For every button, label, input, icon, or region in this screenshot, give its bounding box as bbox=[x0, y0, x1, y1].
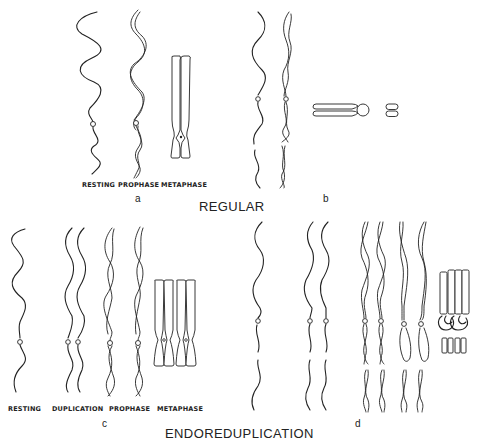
centromere-icon bbox=[363, 319, 368, 324]
panel-b bbox=[252, 12, 398, 188]
panel-label-d: d bbox=[355, 418, 361, 429]
panel-c-duplication-chromosomes bbox=[65, 228, 86, 392]
panel-a bbox=[77, 10, 191, 178]
centromere-icon bbox=[18, 340, 23, 345]
panel-d-metaphase-chromosomes bbox=[439, 270, 469, 353]
panel-label-c: c bbox=[102, 418, 107, 429]
centromere-icon bbox=[308, 319, 313, 324]
centromere-icon bbox=[91, 122, 96, 127]
centromere-icon bbox=[256, 319, 261, 324]
panel-b-resting-chromosome bbox=[252, 12, 265, 188]
label-a-metaphase: METAPHASE bbox=[161, 181, 207, 189]
label-c-resting: RESTING bbox=[8, 405, 41, 413]
centromere-icon bbox=[66, 340, 71, 345]
panel-b-prophase-chromosome bbox=[280, 12, 291, 188]
panel-label-a: a bbox=[135, 193, 141, 204]
centromere-icon bbox=[76, 340, 81, 345]
centromere-icon bbox=[284, 97, 289, 102]
panel-a-resting-chromosome bbox=[77, 12, 101, 174]
centromere-icon bbox=[134, 121, 139, 126]
label-c-metaphase: METAPHASE bbox=[157, 405, 203, 413]
panel-c-prophase-chromosomes bbox=[104, 227, 143, 396]
label-a-resting: RESTING bbox=[82, 181, 115, 189]
heading-endoreduplication: ENDOREDUPLICATION bbox=[165, 426, 314, 441]
label-c-duplication: DUPLICATION bbox=[52, 405, 103, 413]
chromosome-diagram bbox=[0, 0, 479, 445]
panel-c bbox=[12, 227, 196, 396]
panel-b-metaphase-short-chromosome bbox=[386, 104, 398, 117]
panel-d-prophase-chromosomes bbox=[361, 222, 429, 412]
centromere-icon bbox=[256, 97, 261, 102]
panel-d-duplication-chromosomes bbox=[304, 222, 329, 410]
centromere-icon bbox=[108, 341, 113, 346]
heading-regular: REGULAR bbox=[199, 199, 265, 214]
centromere-icon bbox=[324, 319, 329, 324]
panel-d-resting-chromosome bbox=[252, 222, 264, 410]
satellite-icon bbox=[357, 104, 369, 116]
label-c-prophase: PROPHASE bbox=[109, 405, 150, 413]
panel-label-b: b bbox=[323, 193, 329, 204]
centromere-icon bbox=[379, 319, 384, 324]
centromere-icon bbox=[419, 322, 424, 327]
panel-a-prophase-chromosome bbox=[130, 10, 146, 178]
panel-a-metaphase-chromosome bbox=[171, 56, 190, 158]
label-a-prophase: PROPHASE bbox=[118, 181, 159, 189]
panel-d bbox=[252, 222, 469, 412]
panel-c-resting-chromosome bbox=[12, 229, 26, 392]
panel-c-metaphase-chromosomes bbox=[154, 280, 196, 366]
panel-b-metaphase-long-chromosome bbox=[313, 104, 369, 116]
centromere-icon bbox=[402, 322, 407, 327]
centromere-icon bbox=[136, 341, 141, 346]
